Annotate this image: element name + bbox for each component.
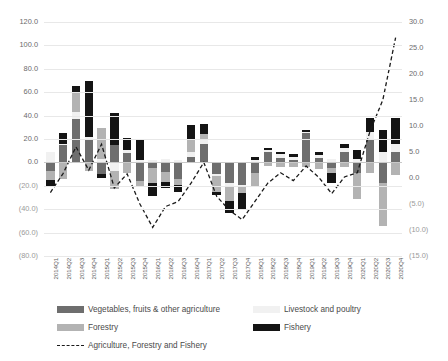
x-axis-tick-label: 2019Q3 <box>334 258 340 279</box>
x-axis-tick-label: 2019Q2 <box>321 258 327 279</box>
primary-y-tick: 100.0 <box>20 41 39 49</box>
secondary-y-tick: 30.0 <box>409 18 423 26</box>
gridline <box>44 69 402 70</box>
x-axis-tick-label: 2017Q4 <box>245 258 251 279</box>
x-axis-tick-label: 2019Q1 <box>309 258 315 279</box>
secondary-y-tick: (5.0) <box>409 200 424 208</box>
primary-y-tick: (20.0) <box>19 182 38 190</box>
primary-y-tick: (60.0) <box>19 229 38 237</box>
x-axis-tick-label: 2014Q1 <box>53 258 59 279</box>
gridline <box>44 139 402 140</box>
x-axis-tick-label: 2020Q2 <box>373 258 379 279</box>
x-axis-tick-label: 2019Q4 <box>347 258 353 279</box>
legend-color-swatch <box>253 324 280 331</box>
x-axis-tick-label: 2018Q3 <box>283 258 289 279</box>
secondary-y-tick: 15.0 <box>409 96 423 104</box>
primary-y-tick: 60.0 <box>24 88 38 96</box>
legend-item[interactable]: Agriculture, Forestry and Fishery <box>57 341 207 350</box>
legend-item[interactable]: Fishery <box>253 323 311 332</box>
trend-line <box>50 38 395 228</box>
x-axis-tick-label: 2015Q4 <box>142 258 148 279</box>
primary-y-tick: (40.0) <box>19 205 38 213</box>
primary-y-tick: 0.0 <box>28 158 38 166</box>
x-axis-tick-label: 2016Q2 <box>168 258 174 279</box>
gridline <box>44 256 402 257</box>
x-axis-tick-label: 2017Q1 <box>206 258 212 279</box>
x-axis-tick-label: 2014Q3 <box>79 258 85 279</box>
gridline <box>44 22 402 23</box>
gridline <box>44 45 402 46</box>
secondary-y-tick: 10.0 <box>409 122 423 130</box>
gridline <box>44 233 402 234</box>
x-axis-tick-label: 2018Q1 <box>258 258 264 279</box>
secondary-y-tick: (10.0) <box>409 226 428 234</box>
gridline <box>44 92 402 93</box>
legend-line-swatch <box>57 345 84 346</box>
x-axis-labels: 2014Q12014Q22014Q32014Q42015Q12015Q22015… <box>44 258 402 302</box>
x-axis-tick-label: 2014Q2 <box>66 258 72 279</box>
x-axis-tick-label: 2017Q2 <box>219 258 225 279</box>
secondary-y-tick: (15.0) <box>409 252 428 260</box>
x-axis-tick-label: 2018Q4 <box>296 258 302 279</box>
x-axis-tick-label: 2016Q4 <box>194 258 200 279</box>
x-axis-tick-label: 2018Q2 <box>270 258 276 279</box>
primary-y-tick: 120.0 <box>20 18 39 26</box>
legend-color-swatch <box>57 324 84 331</box>
x-axis-tick-label: 2020Q1 <box>360 258 366 279</box>
gridline <box>44 209 402 210</box>
x-axis-tick-label: 2020Q4 <box>398 258 404 279</box>
x-axis-tick-label: 2016Q3 <box>181 258 187 279</box>
legend-item[interactable]: Forestry <box>57 323 118 332</box>
x-axis-tick-label: 2020Q3 <box>385 258 391 279</box>
legend-label: Agriculture, Forestry and Fishery <box>88 341 207 350</box>
legend-label: Livestock and poultry <box>284 305 361 314</box>
gridline <box>44 116 402 117</box>
x-axis-tick-label: 2015Q3 <box>130 258 136 279</box>
zero-line <box>44 162 402 163</box>
legend-label: Forestry <box>88 323 118 332</box>
legend-color-swatch <box>253 306 280 313</box>
legend-color-swatch <box>57 306 84 313</box>
legend-label: Vegetables, fruits & other agriculture <box>88 305 220 314</box>
secondary-y-tick: 5.0 <box>409 148 419 156</box>
secondary-y-tick: 0.0 <box>409 174 419 182</box>
legend-item[interactable]: Vegetables, fruits & other agriculture <box>57 305 220 314</box>
x-axis-tick-label: 2017Q3 <box>232 258 238 279</box>
chart-legend: Vegetables, fruits & other agricultureLi… <box>0 303 448 361</box>
primary-y-axis: 120.0100.080.060.040.020.00.0(20.0)(40.0… <box>0 22 42 256</box>
legend-label: Fishery <box>284 323 311 332</box>
gridline <box>44 186 402 187</box>
x-axis-tick-label: 2014Q4 <box>91 258 97 279</box>
primary-y-tick: 20.0 <box>24 135 38 143</box>
secondary-y-axis: 30.025.020.015.010.05.00.0(5.0)(10.0)(15… <box>404 22 448 256</box>
chart-container: 120.0100.080.060.040.020.00.0(20.0)(40.0… <box>0 0 448 361</box>
x-axis-tick-label: 2015Q1 <box>104 258 110 279</box>
plot-area <box>44 22 402 256</box>
legend-item[interactable]: Livestock and poultry <box>253 305 361 314</box>
primary-y-tick: 80.0 <box>24 65 38 73</box>
secondary-y-tick: 25.0 <box>409 44 423 52</box>
primary-y-tick: 40.0 <box>24 112 38 120</box>
x-axis-tick-label: 2015Q2 <box>117 258 123 279</box>
secondary-y-tick: 20.0 <box>409 70 423 78</box>
primary-y-tick: (80.0) <box>19 252 38 260</box>
x-axis-tick-label: 2016Q1 <box>155 258 161 279</box>
